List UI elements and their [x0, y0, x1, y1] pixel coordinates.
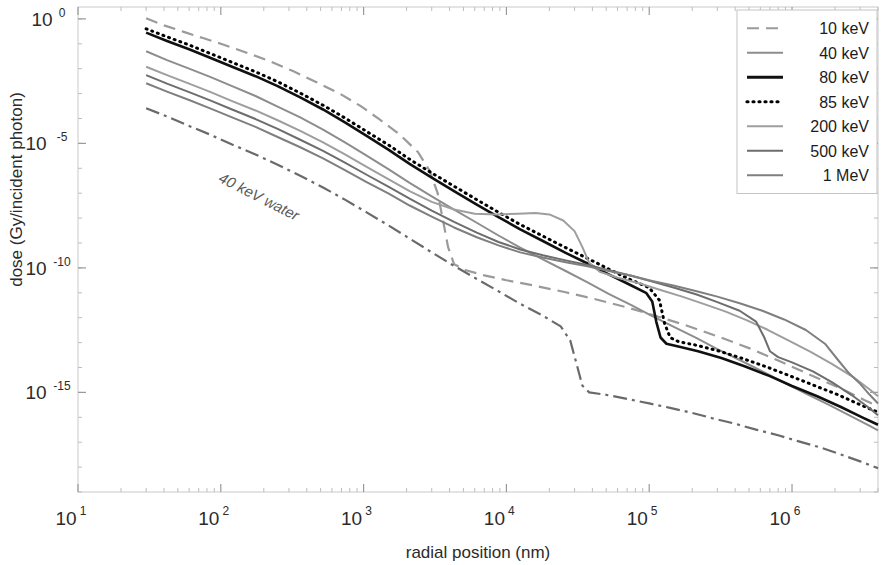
svg-text:-10: -10 — [53, 255, 71, 269]
y-tick-label: 10-10 — [25, 255, 71, 279]
figure-container: 40 keV water 101102103104105106 10010-51… — [0, 0, 883, 565]
y-axis-title: dose (Gy/incident photon) — [7, 92, 26, 287]
chart-legend: 10 keV40 keV80 keV85 keV200 keV500 keV1 … — [737, 10, 877, 194]
legend-label: 500 keV — [810, 143, 869, 160]
svg-text:10: 10 — [769, 508, 790, 529]
dose-vs-radial-position-chart: 40 keV water 101102103104105106 10010-51… — [0, 0, 883, 565]
x-tick-label: 101 — [55, 504, 86, 529]
x-tick-label: 106 — [769, 504, 800, 529]
legend-label: 40 keV — [819, 45, 869, 62]
legend-label: 80 keV — [819, 69, 869, 86]
svg-text:10: 10 — [484, 508, 505, 529]
svg-text:-5: -5 — [57, 130, 68, 144]
svg-text:10: 10 — [25, 133, 46, 154]
svg-text:4: 4 — [508, 504, 515, 518]
svg-text:-15: -15 — [53, 379, 71, 393]
x-tick-label: 102 — [198, 504, 229, 529]
svg-text:2: 2 — [222, 504, 229, 518]
svg-text:6: 6 — [794, 504, 801, 518]
y-tick-label: 100 — [31, 6, 65, 30]
svg-text:10: 10 — [341, 508, 362, 529]
x-tick-label: 104 — [484, 504, 515, 529]
x-tick-label: 105 — [627, 504, 658, 529]
x-tick-label: 103 — [341, 504, 372, 529]
svg-text:0: 0 — [59, 6, 66, 20]
x-axis-title: radial position (nm) — [406, 543, 551, 562]
legend-label: 1 MeV — [823, 167, 870, 184]
y-tick-label: 10-15 — [25, 379, 71, 403]
legend-label: 85 keV — [819, 94, 869, 111]
svg-text:10: 10 — [25, 382, 46, 403]
y-axis-tick-labels: 10010-510-1010-15 — [25, 6, 71, 404]
svg-text:3: 3 — [365, 504, 372, 518]
svg-text:5: 5 — [651, 504, 658, 518]
curve-annotation: 40 keV water — [216, 169, 303, 224]
svg-text:10: 10 — [25, 258, 46, 279]
legend-label: 10 keV — [819, 20, 869, 37]
chart-annotations: 40 keV water — [216, 169, 303, 224]
svg-text:10: 10 — [627, 508, 648, 529]
legend-label: 200 keV — [810, 118, 869, 135]
svg-text:10: 10 — [198, 508, 219, 529]
svg-text:10: 10 — [55, 508, 76, 529]
svg-text:10: 10 — [31, 9, 52, 30]
y-tick-label: 10-5 — [25, 130, 67, 154]
x-axis-tick-labels: 101102103104105106 — [55, 504, 800, 529]
svg-text:1: 1 — [80, 504, 87, 518]
x-axis-major-ticks — [78, 7, 792, 492]
